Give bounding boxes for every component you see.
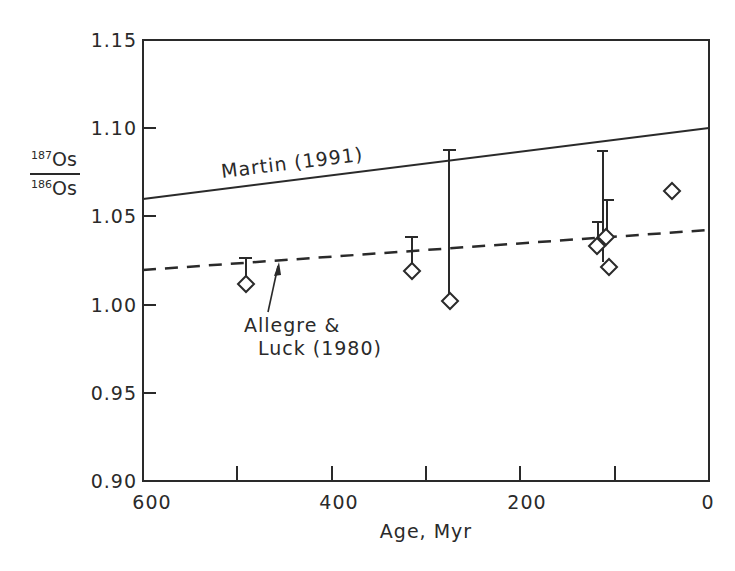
allegre-luck-line (143, 230, 709, 270)
y-tick-label: 1.15 (91, 29, 137, 51)
diamond-marker (238, 276, 254, 292)
y-tick-label: 1.05 (91, 205, 137, 227)
fraction-bar (30, 173, 80, 175)
y-axis-label: 187Os 186Os (26, 148, 82, 199)
x-tick-label: 400 (319, 491, 358, 513)
y-ticks (143, 128, 156, 393)
y-label-num-superscript: 187 (31, 149, 52, 162)
y-tick-label: 0.95 (91, 382, 137, 404)
diamond-marker (442, 293, 458, 309)
y-label-denominator: Os (52, 177, 77, 199)
diamond-marker (404, 263, 420, 279)
martin-label: Martin (1991) (220, 143, 364, 182)
y-label-den-superscript: 186 (31, 178, 52, 191)
diamond-marker (664, 183, 680, 199)
y-tick-label: 0.90 (91, 470, 137, 492)
allegre-label-line2: Luck (1980) (258, 337, 382, 359)
chart-svg: 0.90 0.95 1.00 1.05 1.10 1.15 600 400 20… (0, 0, 735, 571)
data-markers (238, 183, 680, 309)
y-label-numerator: Os (52, 148, 77, 170)
x-tick-label: 200 (507, 491, 546, 513)
plot-frame (143, 40, 709, 481)
y-tick-label: 1.00 (91, 294, 137, 316)
arrowhead-icon (274, 262, 281, 276)
y-tick-label: 1.10 (91, 117, 137, 139)
allegre-label-line1: Allegre & (244, 314, 340, 336)
x-tick-label: 0 (701, 491, 714, 513)
x-ticks (237, 466, 615, 481)
x-tick-label: 600 (132, 491, 171, 513)
x-axis-label: Age, Myr (380, 520, 472, 542)
